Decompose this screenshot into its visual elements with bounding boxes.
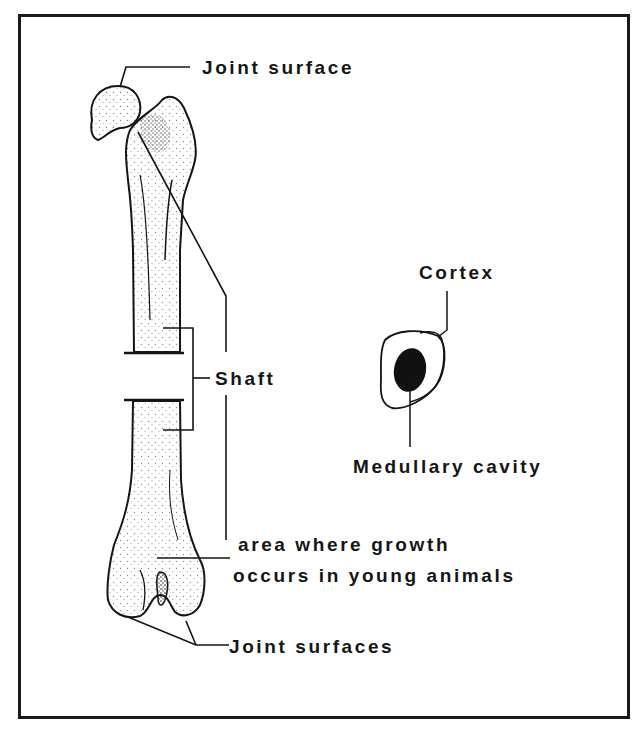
diagram-artwork (0, 0, 644, 729)
label-growth-area-line2: occurs in young animals (233, 566, 516, 585)
label-joint-surface: Joint surface (202, 58, 354, 77)
label-cortex: Cortex (419, 263, 495, 282)
label-growth-area-line1: area where growth (238, 535, 450, 554)
label-shaft: Shaft (215, 369, 276, 388)
femur-upper (91, 86, 196, 352)
leader-joint-surfaces-left (128, 617, 229, 645)
leader-joint-surface (120, 67, 190, 87)
leader-cortex (438, 291, 447, 337)
label-joint-surfaces: Joint surfaces (229, 637, 394, 656)
cross-section (381, 291, 447, 447)
label-medullary-cavity: Medullary cavity (353, 457, 542, 476)
femur-lower (107, 401, 204, 617)
